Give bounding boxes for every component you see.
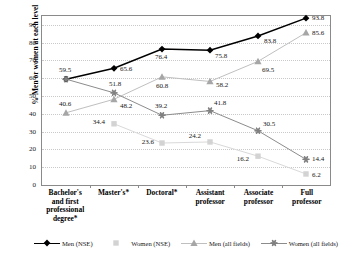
x-category-label: Bachelor'sand firstprofessionaldegree* (41, 189, 89, 237)
legend-item[interactable]: Men (NSE) (34, 239, 93, 248)
x-category-label: Assistantprofessor (186, 189, 234, 237)
data-point-marker (159, 140, 164, 145)
x-category-label: Fullprofessor (283, 189, 331, 237)
data-point-label: 14.4 (312, 155, 324, 163)
legend-label: Men (all fields) (209, 240, 250, 247)
data-point-label: 75.8 (215, 52, 227, 60)
data-point-label: 30.5 (263, 120, 275, 128)
y-tick-label: 80 (0, 39, 36, 47)
y-tick-label: 0 (0, 181, 36, 189)
y-tick-label: 30 (0, 128, 36, 136)
y-tick-label: 90 (0, 21, 36, 29)
data-point-label: 76.4 (42, 53, 280, 61)
data-point-marker (158, 73, 165, 79)
data-point-label: 85.6 (312, 29, 324, 37)
data-point-marker (207, 139, 212, 144)
data-point-marker (303, 15, 310, 22)
x-category-label: Doctoral* (138, 189, 186, 237)
data-point-marker (111, 65, 118, 72)
legend-marker-asterisk-icon (261, 239, 287, 248)
x-category-label: Associateprofessor (234, 189, 282, 237)
data-point-marker (110, 96, 117, 102)
plot-area: 59.565.676.475.883.893.834.423.624.216.2… (41, 15, 331, 186)
chart-figure: % Men or women at each level 01020304050… (0, 0, 342, 256)
legend-label: Women (all fields) (289, 240, 338, 247)
data-point-label: 51.8 (42, 80, 188, 88)
data-point-label: 69.5 (262, 66, 274, 74)
legend-item[interactable]: Men (all fields) (181, 239, 250, 248)
legend-label: Women (NSE) (131, 240, 170, 247)
y-tick-label: 40 (0, 110, 36, 118)
data-point-marker (255, 153, 260, 158)
data-point-label: 65.6 (120, 65, 132, 73)
data-point-label: 6.2 (312, 171, 321, 179)
chart-legend: Men (NSE)Women (NSE)Men (all fields)Wome… (34, 236, 338, 250)
legend-marker-diamond-icon (34, 239, 60, 248)
data-point-marker (255, 33, 262, 40)
y-tick-label: 60 (0, 74, 36, 82)
legend-item[interactable]: Women (NSE) (103, 239, 170, 248)
data-point-marker (111, 90, 118, 96)
data-point-label: 93.8 (312, 14, 324, 22)
data-point-marker (302, 29, 309, 35)
legend-item[interactable]: Women (all fields) (261, 239, 338, 248)
x-category-label: Master's* (89, 189, 137, 237)
y-tick-label: 10 (0, 163, 36, 171)
data-point-label: 59.5 (42, 66, 88, 74)
data-point-marker (255, 128, 262, 134)
y-tick-label: 20 (0, 145, 36, 153)
data-point-label: 58.2 (216, 81, 228, 89)
data-point-marker (159, 46, 166, 53)
data-point-marker (303, 156, 310, 162)
data-point-label: 24.2 (42, 132, 201, 140)
legend-marker-triangle-icon (181, 239, 207, 248)
data-point-marker (159, 112, 166, 118)
data-point-label: 41.8 (214, 99, 226, 107)
data-point-label: 34.4 (42, 118, 105, 126)
data-point-marker (303, 171, 308, 176)
data-point-marker (111, 121, 116, 126)
x-axis-category-labels: Bachelor'sand firstprofessionaldegree*Ma… (41, 189, 331, 237)
legend-marker-square-icon (103, 239, 129, 248)
y-tick-label: 50 (0, 92, 36, 100)
legend-label: Men (NSE) (62, 240, 93, 247)
data-point-label: 16.2 (42, 155, 249, 163)
data-point-label: 83.8 (264, 37, 276, 45)
y-tick-label: 70 (0, 56, 36, 64)
data-point-label: 39.2 (42, 102, 280, 110)
